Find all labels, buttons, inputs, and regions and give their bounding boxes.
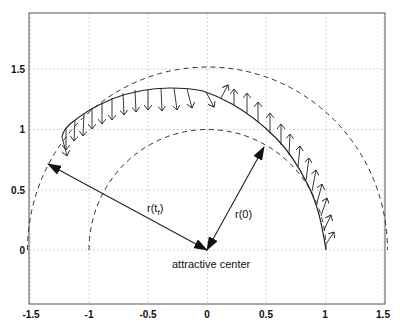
y-tick-label: 0.5 — [11, 185, 25, 196]
y-tick-label: 1 — [19, 124, 25, 135]
x-tick-label: 0.5 — [259, 309, 273, 320]
x-tick-label: 0 — [204, 309, 210, 320]
x-tick-label: 1 — [322, 309, 328, 320]
x-tick-label: -1.5 — [22, 309, 40, 320]
x-tick-label: -0.5 — [139, 309, 157, 320]
label-r0: r(0) — [235, 208, 252, 220]
y-tick-label: 1.5 — [11, 64, 25, 75]
x-axis-ticks: -1.5 -1 -0.5 0 0.5 1 1.5 — [22, 309, 390, 320]
x-tick-label: -1 — [85, 309, 94, 320]
y-tick-label: 0 — [19, 245, 25, 256]
y-axis-ticks: 0 0.5 1 1.5 — [11, 64, 25, 256]
trajectory-diagram: r(0) r(tf) attractive center 0 0.5 1 1.5… — [0, 0, 400, 328]
label-attractive-center: attractive center — [172, 258, 251, 270]
x-tick-label: 1.5 — [376, 309, 390, 320]
